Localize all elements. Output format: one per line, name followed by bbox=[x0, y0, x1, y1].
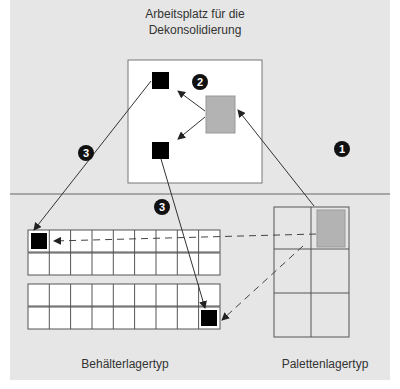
svg-text:1: 1 bbox=[339, 143, 345, 155]
svg-text:3: 3 bbox=[159, 201, 165, 213]
step-marker-3-left: 3 bbox=[78, 145, 94, 161]
step-marker-2: 2 bbox=[192, 74, 208, 90]
bin-storage-block-2 bbox=[28, 284, 220, 329]
workstation-bin-bottom bbox=[152, 142, 169, 159]
workstation-bin-top bbox=[152, 72, 169, 89]
stored-pallet bbox=[317, 210, 345, 247]
pallet-storage-label: Palettenlagertyp bbox=[270, 356, 380, 372]
diagram-graphics: 1 2 3 3 bbox=[0, 0, 400, 389]
svg-text:3: 3 bbox=[83, 147, 89, 159]
bin-storage-block-1 bbox=[28, 230, 220, 275]
step-marker-1: 1 bbox=[334, 141, 350, 157]
step-marker-3-right: 3 bbox=[154, 199, 170, 215]
stored-bin-bottom-right bbox=[201, 310, 217, 326]
bin-storage-label: Behälterlagertyp bbox=[60, 356, 190, 372]
svg-text:2: 2 bbox=[197, 76, 203, 88]
workstation-pallet bbox=[206, 96, 235, 133]
stored-bin-top-left bbox=[31, 233, 47, 249]
deconsolidation-diagram: Arbeitsplatz für die Dekonsolidierung bbox=[0, 0, 400, 389]
